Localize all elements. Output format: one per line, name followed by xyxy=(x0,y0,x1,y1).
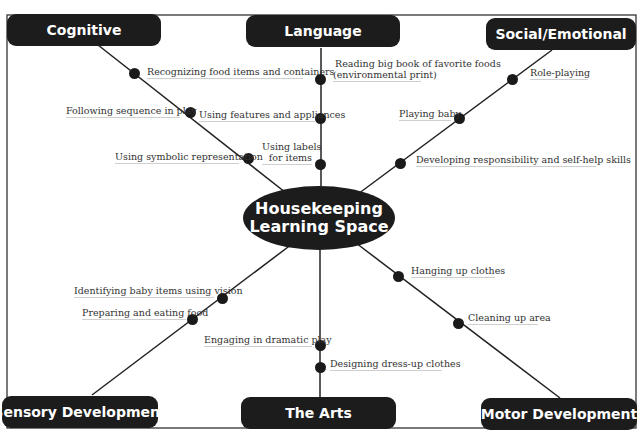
label-preparing-eating-food: Preparing and eating food xyxy=(82,307,186,320)
node-dot xyxy=(315,74,326,85)
domain-sensory-development: Sensory Development xyxy=(2,396,158,428)
label-hanging-up-clothes: Hanging up clothes xyxy=(411,265,495,278)
node-dot xyxy=(393,271,404,282)
label-environmental-print: (environmental print) xyxy=(333,69,421,82)
label-for-items: for items xyxy=(262,152,312,165)
domain-motor-development: Motor Development xyxy=(481,398,637,430)
label-designing-dress-up: Designing dress-up clothes xyxy=(330,358,442,371)
label-recognizing-food: Recognizing food items and containers xyxy=(147,66,303,79)
node-dot xyxy=(315,362,326,373)
concept-map: Cognitive Language Social/Emotional Sens… xyxy=(0,0,642,437)
label-identifying-baby-items: Identifying baby items using vision xyxy=(74,285,214,298)
label-symbolic-representation: Using symbolic representation xyxy=(115,151,239,164)
label-cleaning-up-area: Cleaning up area xyxy=(468,312,538,325)
label-role-playing: Role-playing xyxy=(530,67,588,80)
center-title-line2: Learning Space xyxy=(249,218,388,236)
domain-the-arts: The Arts xyxy=(241,397,396,429)
domain-social-emotional: Social/Emotional xyxy=(486,18,636,50)
node-dot xyxy=(453,318,464,329)
center-title-line1: Housekeeping xyxy=(255,200,383,218)
center-node: Housekeeping Learning Space xyxy=(243,186,395,250)
label-playing-baby: Playing baby xyxy=(399,108,451,121)
label-engaging-dramatic-play: Engaging in dramatic play xyxy=(204,334,312,347)
label-developing-responsibility: Developing responsibility and self-help … xyxy=(416,154,596,167)
label-following-sequence: Following sequence in play xyxy=(66,105,180,118)
label-using-features: Using features and appliances xyxy=(199,109,315,122)
node-dot xyxy=(395,158,406,169)
node-dot xyxy=(507,74,518,85)
node-dot xyxy=(315,159,326,170)
node-dot xyxy=(129,68,140,79)
domain-language: Language xyxy=(246,15,400,47)
domain-cognitive: Cognitive xyxy=(7,14,161,46)
